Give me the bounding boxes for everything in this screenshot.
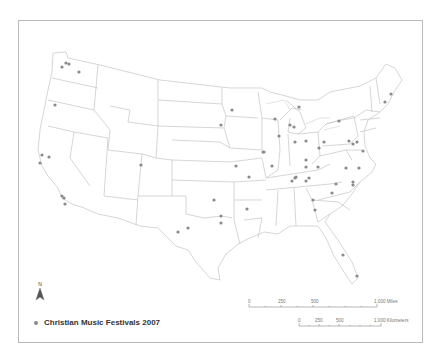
festival-marker <box>67 62 70 65</box>
festival-marker <box>262 150 265 153</box>
festival-marker <box>219 123 222 126</box>
legend-label: Christian Music Festivals 2007 <box>44 318 160 327</box>
festival-marker <box>53 103 56 106</box>
festival-marker <box>307 176 310 179</box>
festival-marker <box>277 134 280 137</box>
festival-marker <box>270 164 273 167</box>
festival-marker <box>288 123 291 126</box>
festival-marker <box>351 142 354 145</box>
scale-km-500: 500 <box>336 318 344 323</box>
festival-marker <box>245 207 248 210</box>
festival-marker <box>304 179 307 182</box>
festival-marker <box>351 180 354 183</box>
festival-dot-icon <box>34 321 38 325</box>
festival-marker <box>316 165 319 168</box>
festival-marker <box>361 149 364 152</box>
festival-marker <box>212 198 215 201</box>
festival-marker <box>330 191 333 194</box>
scale-bar-kilometers <box>299 323 381 326</box>
festival-marker <box>38 161 41 164</box>
festival-marker <box>389 92 392 95</box>
festival-marker <box>40 153 43 156</box>
scale-km-end: 1,000 Kilometers <box>374 318 408 323</box>
scale-bar-miles <box>249 304 377 307</box>
festival-marker <box>317 146 320 149</box>
festival-marker <box>383 100 386 103</box>
festival-marker <box>355 140 358 143</box>
scale-miles-250: 250 <box>278 299 286 304</box>
north-arrow: N <box>34 281 46 287</box>
festival-marker <box>293 140 296 143</box>
festival-marker <box>293 176 296 179</box>
festival-marker <box>292 125 295 128</box>
festival-marker <box>47 155 50 158</box>
festival-marker <box>273 117 276 120</box>
festival-marker <box>337 119 340 122</box>
festival-marker <box>139 163 142 166</box>
festival-marker <box>351 183 354 186</box>
us-states-map <box>0 0 441 359</box>
festival-marker <box>219 221 222 224</box>
festival-marker <box>247 175 250 178</box>
festival-marker <box>304 139 307 142</box>
north-arrow-icon <box>36 288 44 300</box>
festival-marker <box>234 164 237 167</box>
festival-marker <box>219 214 222 217</box>
scale-miles-0: 0 <box>248 299 251 304</box>
legend: Christian Music Festivals 2007 <box>34 318 160 327</box>
festival-marker <box>77 70 80 73</box>
festival-marker <box>176 230 179 233</box>
festival-marker <box>355 274 358 277</box>
festival-marker <box>304 158 307 161</box>
festival-marker <box>344 166 347 169</box>
scale-miles-end: 1,000 Miles <box>374 299 398 304</box>
festival-marker <box>334 182 337 185</box>
festival-marker <box>297 105 300 108</box>
festival-marker <box>311 198 314 201</box>
festival-marker <box>347 139 350 142</box>
scale-km-0: 0 <box>298 318 301 323</box>
festival-marker <box>341 253 344 256</box>
festival-marker <box>304 165 307 168</box>
festival-marker <box>290 179 293 182</box>
scale-km-250: 250 <box>315 318 323 323</box>
festival-marker <box>357 166 360 169</box>
festival-marker <box>62 196 65 199</box>
festival-marker <box>230 108 233 111</box>
festival-marker <box>186 226 189 229</box>
festival-marker <box>313 208 316 211</box>
festival-marker <box>60 65 63 68</box>
scale-miles-500: 500 <box>311 299 319 304</box>
festival-marker <box>322 140 325 143</box>
festival-marker <box>64 61 67 64</box>
festival-marker <box>63 202 66 205</box>
north-label: N <box>34 281 46 287</box>
